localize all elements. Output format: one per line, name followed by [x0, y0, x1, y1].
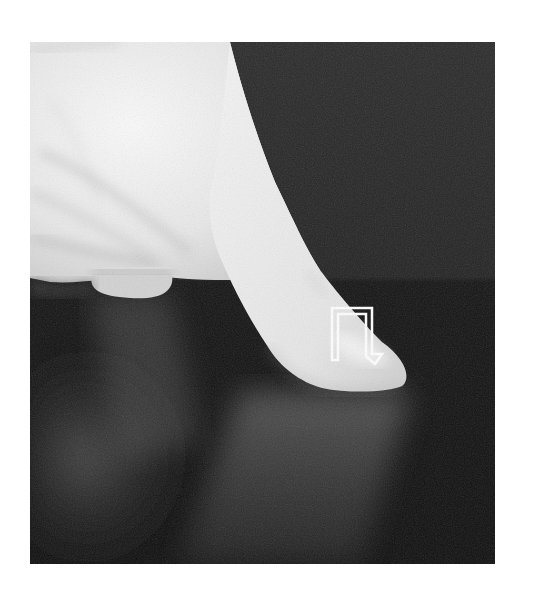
photo-canvas	[30, 42, 495, 564]
grain-texture	[30, 42, 495, 564]
photo	[30, 42, 495, 564]
